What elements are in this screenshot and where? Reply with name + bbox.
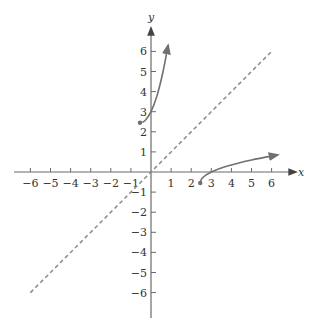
y-tick-label: −2	[131, 206, 147, 219]
y-tick-label: 3	[140, 106, 147, 119]
y-axis-label: y	[147, 11, 155, 24]
y-tick-label: −6	[131, 287, 147, 300]
x-tick-label: −4	[62, 177, 78, 190]
y-tick-label: 1	[140, 146, 147, 159]
x-tick-label: 3	[208, 177, 215, 190]
x-tick-label: 6	[268, 177, 275, 190]
y-tick-label: −4	[131, 246, 147, 259]
y-tick-label: −3	[131, 226, 147, 239]
y-tick-label: 2	[140, 126, 147, 139]
series	[30, 45, 277, 292]
x-tick-label: 1	[168, 177, 175, 190]
y-tick-label: −1	[131, 186, 147, 199]
x-tick-label: 4	[228, 177, 235, 190]
x-tick-label: 5	[248, 177, 255, 190]
f-inverse-start-dot	[198, 181, 202, 185]
y-tick-label: 6	[140, 45, 147, 58]
x-tick-label: 2	[188, 177, 195, 190]
x-tick-label: −3	[83, 177, 99, 190]
x-axis-label: x	[298, 166, 305, 179]
y-tick-label: 4	[140, 86, 147, 99]
y-tick-label: −5	[131, 267, 147, 280]
x-tick-label: −2	[103, 177, 119, 190]
x-tick-label: −6	[22, 177, 38, 190]
y-tick-label: 5	[140, 66, 147, 79]
graph: −6−5−4−3−2−1123456−6−5−4−3−2−1123456 x y	[0, 0, 315, 329]
f-start-dot	[138, 121, 142, 125]
x-tick-label: −5	[42, 177, 58, 190]
